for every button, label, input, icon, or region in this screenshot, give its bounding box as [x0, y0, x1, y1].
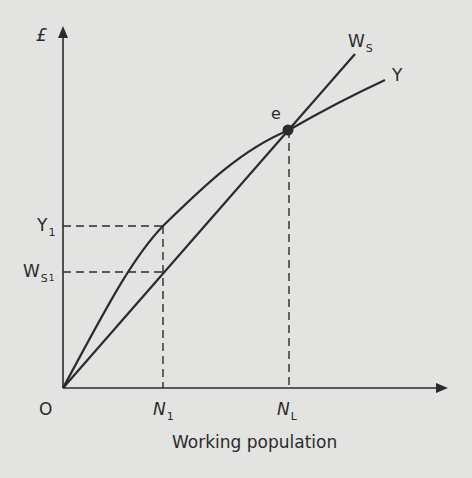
ws1-marker-label: WS1 — [23, 263, 55, 280]
y-curve-label: Y — [392, 67, 402, 84]
n1-marker-main: N — [153, 399, 166, 419]
y-axis-label: £ — [36, 27, 47, 44]
ws1-marker-subsub: 1 — [49, 273, 55, 283]
ws1-marker-sub: S — [41, 272, 48, 285]
y1-marker-main: Y — [37, 215, 47, 235]
n1-marker-sub: 1 — [167, 410, 174, 423]
ws-curve-label-main: W — [348, 31, 365, 51]
origin-label: O — [39, 401, 52, 418]
ws1-marker-main: W — [23, 261, 40, 281]
ws-curve-label: WS — [348, 33, 373, 50]
nl-marker-sub: L — [291, 410, 297, 423]
y1-marker-label: Y1 — [37, 217, 55, 234]
nl-marker-main: N — [277, 399, 290, 419]
point-e-marker — [283, 125, 294, 136]
ws-curve-label-sub: S — [366, 42, 373, 55]
point-e-label: e — [271, 106, 281, 122]
x-axis-label: Working population — [172, 434, 337, 451]
diagram: £ WS Y e Y1 WS1 O N1 NL Working populati… — [0, 0, 472, 478]
y-axis-arrow-icon — [58, 26, 68, 38]
y-curve — [63, 80, 385, 388]
nl-marker-label: NL — [277, 401, 297, 418]
x-axis-arrow-icon — [436, 383, 448, 393]
y1-marker-sub: 1 — [48, 226, 55, 239]
n1-marker-label: N1 — [153, 401, 174, 418]
ws-line — [63, 54, 355, 388]
